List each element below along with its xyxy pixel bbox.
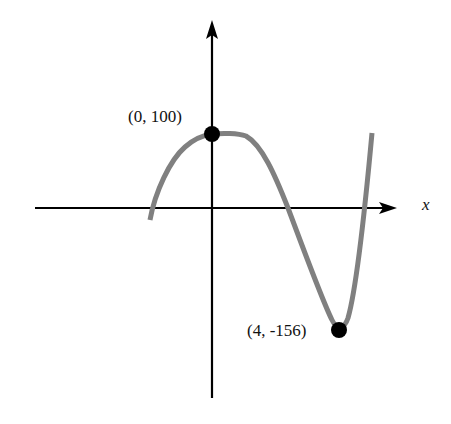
x-axis-label: x (422, 195, 430, 215)
chart-canvas (0, 0, 451, 424)
max-point-marker (204, 126, 220, 142)
min-point-label: (4, -156) (247, 321, 306, 341)
min-point-marker (331, 322, 347, 338)
function-curve (150, 133, 372, 327)
max-point-label: (0, 100) (128, 107, 182, 127)
